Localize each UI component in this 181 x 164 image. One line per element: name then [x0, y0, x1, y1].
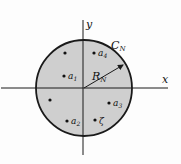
point-a3 — [107, 101, 110, 104]
point-unlabeled-upper-left — [63, 51, 66, 54]
x-axis-label: x — [162, 73, 169, 86]
point-a1 — [62, 74, 65, 77]
point-a4 — [92, 51, 95, 54]
point-zeta — [93, 118, 96, 121]
contour-label: CN — [111, 39, 126, 53]
y-axis-label: y — [85, 18, 93, 31]
contour-diagram: x y RN CN a4 a1 a3 a2 ζ — [0, 0, 181, 164]
point-unlabeled-lower-left — [48, 98, 51, 101]
point-a2 — [65, 119, 68, 122]
